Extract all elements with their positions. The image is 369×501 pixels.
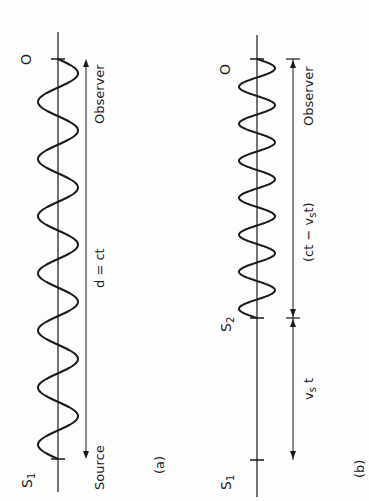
distance-label-b2: vs t bbox=[301, 378, 318, 400]
arrowhead-up-icon bbox=[290, 60, 296, 68]
arrowhead-down-icon bbox=[290, 309, 296, 317]
diagram-canvas: O S1 Observer Source d = ct (a) O S2 S1 … bbox=[0, 0, 369, 501]
distance-label-a: d = ct bbox=[92, 248, 107, 288]
panel-a: O S1 Observer Source d = ct (a) bbox=[18, 32, 167, 492]
arrowhead-up-icon bbox=[83, 59, 89, 67]
caption-a: (a) bbox=[152, 456, 167, 474]
observer-text-a: Observer bbox=[92, 64, 107, 124]
distance-label-b1: (ct − vst) bbox=[301, 202, 318, 262]
arrowhead-up-icon bbox=[290, 319, 296, 327]
source1-label-b: S1 bbox=[218, 475, 236, 490]
doppler-figure: O S1 Observer Source d = ct (a) O S2 S1 … bbox=[0, 0, 369, 501]
observer-text-b: Observer bbox=[301, 66, 316, 126]
arrowhead-down-icon bbox=[290, 451, 296, 459]
source-text-a: Source bbox=[92, 445, 107, 490]
arrowhead-down-icon bbox=[83, 451, 89, 459]
caption-b: (b) bbox=[352, 460, 367, 478]
source2-label-b: S2 bbox=[218, 317, 236, 332]
observer-symbol-a: O bbox=[18, 54, 34, 65]
observer-symbol-b: O bbox=[217, 64, 233, 75]
panel-b: O S2 S1 Observer (ct − vst) vs t (b) bbox=[217, 35, 367, 497]
source-label-a: S1 bbox=[19, 473, 37, 488]
